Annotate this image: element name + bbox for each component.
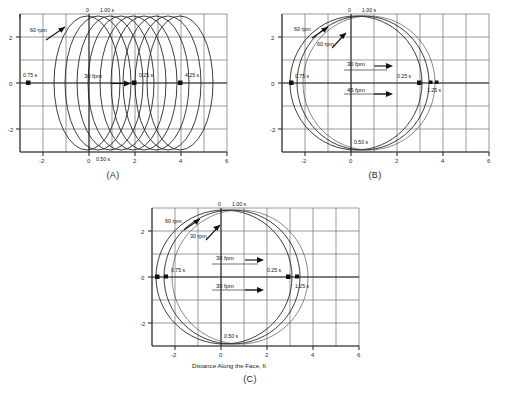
panel-a-xtick-1: 0 <box>87 158 91 164</box>
panel-b-plot: 60 rpm 60 rpm 30 fpm 45 fpm 0 1.00 s 0.7… <box>270 4 510 169</box>
panel-c-time-label-1: 1.00 s <box>232 201 247 207</box>
panel-a-fpm-label-0: 30 fpm <box>84 73 102 79</box>
panel-b-xtick-0: -2 <box>301 158 307 164</box>
panel-c-plot: 60 rpm 30 rpm 30 fpm 30 fpm 0 1.00 s 0.7… <box>140 198 380 373</box>
panel-a-fpm-arrow <box>111 81 131 87</box>
panel-c-time-label-3: 0.25 s <box>267 267 282 273</box>
panel-c-xtick-3: 4 <box>311 352 315 358</box>
panel-b-caption: (B) <box>255 170 495 180</box>
panel-b-fpm-label-1: 45 fpm <box>347 87 365 93</box>
panel-c-time-label-4: 1.25 s <box>295 283 310 289</box>
panel-a-time-label-0: 0 <box>86 7 89 13</box>
panel-b-fpm-label-0: 30 fpm <box>347 61 365 67</box>
panel-c-time-label-5: 0.50 s <box>224 333 239 339</box>
panel-c-time-label-0: 0 <box>218 201 221 207</box>
panel-b-time-label-5: 0.50 s <box>354 139 369 145</box>
panel-b-ytick-2: -2 <box>270 127 276 133</box>
panel-c-time-label-2: 0.75 s <box>171 267 186 273</box>
panel-c-svg: 60 rpm 30 rpm 30 fpm 30 fpm 0 1.00 s 0.7… <box>140 198 380 373</box>
panel-c: 60 rpm 30 rpm 30 fpm 30 fpm 0 1.00 s 0.7… <box>140 198 380 390</box>
panel-b-ytick-1: 0 <box>271 81 275 87</box>
panel-b-time-label-2: 0.75 s <box>295 73 310 79</box>
panel-a-time-label-2: 0.75 s <box>23 72 38 78</box>
panel-b-ytick-0: 2 <box>271 35 275 41</box>
panel-c-ytick-0: 2 <box>141 229 145 235</box>
panel-a-rpm-label-0: 60 rpm <box>30 27 47 33</box>
panel-c-ytick-2: -2 <box>140 321 146 327</box>
panel-c-xtick-0: -2 <box>171 352 177 358</box>
panel-c-xtick-2: 2 <box>265 352 269 358</box>
panel-c-xtick-1: 0 <box>219 352 223 358</box>
panel-b-xtick-2: 2 <box>395 158 399 164</box>
panel-b-xtick-3: 4 <box>441 158 445 164</box>
panel-b-xtick-4: 6 <box>487 158 491 164</box>
panel-a-time-label-3: 0.25 s <box>139 72 154 78</box>
x-axis-title: Distance Along the Face, ft <box>192 362 266 369</box>
panel-c-rpm-label-1: 30 rpm <box>190 233 207 239</box>
panel-c-axes <box>148 208 359 350</box>
panel-a-caption: (A) <box>0 170 233 180</box>
panel-a-time-label-5: 0.50 s <box>96 156 111 162</box>
panel-c-fpm-label-1: 30 fpm <box>216 283 234 289</box>
panel-a-time-label-4: 4.25 s <box>185 72 200 78</box>
panel-c-caption: (C) <box>130 374 370 384</box>
panel-a-xtick-3: 4 <box>179 158 183 164</box>
panel-b-time-label-4: 1.25 s <box>427 87 442 93</box>
panel-a-time-label-1: 1.00 s <box>100 7 115 13</box>
panel-b: 60 rpm 60 rpm 30 fpm 45 fpm 0 1.00 s 0.7… <box>270 4 510 189</box>
panel-a-ytick-1: 0 <box>9 81 13 87</box>
panel-a-ytick-0: 2 <box>9 35 13 41</box>
panel-c-ytick-1: 0 <box>141 275 145 281</box>
panel-c-rpm-label-0: 60 rpm <box>165 218 182 224</box>
panel-b-rpm-label-0: 60 rpm <box>294 26 311 32</box>
panel-c-xtick-4: 6 <box>357 352 361 358</box>
panel-a-xtick-2: 2 <box>133 158 137 164</box>
panel-a-xtick-0: -2 <box>39 158 45 164</box>
panel-a-tick-labels: -2 0 2 4 6 2 0 -2 <box>8 35 229 165</box>
panel-a: 60 rpm 30 fpm 0 1.00 s 0.75 s 0.25 s 4.2… <box>8 4 248 189</box>
panel-b-rpm-label-1: 60 rpm <box>317 41 334 47</box>
panel-b-time-label-1: 1.00 s <box>362 7 377 13</box>
panel-b-time-label-3: 0.25 s <box>397 73 412 79</box>
panel-b-labels: 60 rpm 60 rpm 30 fpm 45 fpm 0 1.00 s 0.7… <box>294 7 442 145</box>
panel-a-svg: 60 rpm 30 fpm 0 1.00 s 0.75 s 0.25 s 4.2… <box>8 4 248 169</box>
panel-a-xtick-4: 6 <box>225 158 229 164</box>
panel-b-xtick-1: 0 <box>349 158 353 164</box>
panel-b-time-label-0: 0 <box>348 7 351 13</box>
panel-c-fpm-label-0: 30 fpm <box>216 255 234 261</box>
panel-a-plot: 60 rpm 30 fpm 0 1.00 s 0.75 s 0.25 s 4.2… <box>8 4 248 169</box>
panel-b-svg: 60 rpm 60 rpm 30 fpm 45 fpm 0 1.00 s 0.7… <box>270 4 510 169</box>
panel-a-ytick-2: -2 <box>8 127 14 133</box>
